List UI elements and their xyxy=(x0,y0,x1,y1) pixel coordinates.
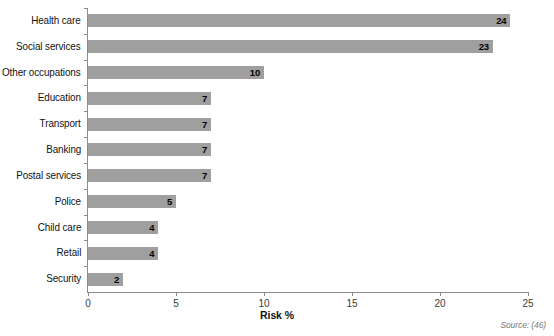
category-label: Security xyxy=(46,266,81,292)
category-label: Police xyxy=(55,189,81,215)
category-label: Other occupations xyxy=(2,60,81,86)
bar: 7 xyxy=(88,143,211,156)
y-axis-tick xyxy=(84,111,88,112)
bar: 7 xyxy=(88,169,211,182)
bar-value-label: 7 xyxy=(202,169,207,182)
category-label: Postal services xyxy=(16,163,81,189)
category-label: Retail xyxy=(56,240,81,266)
x-axis-tick xyxy=(88,292,89,296)
bar-chart: Health care24Social services23Other occu… xyxy=(0,0,554,336)
bar-value-label: 4 xyxy=(149,221,154,234)
y-axis-tick xyxy=(84,34,88,35)
category-label: Child care xyxy=(37,215,81,241)
category-label: Health care xyxy=(32,8,81,34)
x-axis-title: Risk % xyxy=(0,309,554,321)
x-axis-tick xyxy=(440,292,441,296)
bar: 4 xyxy=(88,221,158,234)
bar: 4 xyxy=(88,247,158,260)
category-label: Transport xyxy=(40,111,81,137)
bar-value-label: 5 xyxy=(167,195,172,208)
bar: 2 xyxy=(88,273,123,286)
chart-row: Social services23 xyxy=(88,34,528,60)
bar-value-label: 7 xyxy=(202,92,207,105)
chart-row: Banking7 xyxy=(88,137,528,163)
y-axis-tick xyxy=(84,137,88,138)
bar-value-label: 23 xyxy=(479,40,489,53)
x-axis-tick xyxy=(528,292,529,296)
x-axis-tick-label: 20 xyxy=(434,298,445,309)
y-axis-tick xyxy=(84,163,88,164)
bar: 10 xyxy=(88,66,264,79)
y-axis-tick xyxy=(84,189,88,190)
bar-value-label: 2 xyxy=(114,273,119,286)
bar: 23 xyxy=(88,40,493,53)
chart-row: Health care24 xyxy=(88,8,528,34)
y-axis-tick xyxy=(84,215,88,216)
x-axis-tick-label: 25 xyxy=(522,298,533,309)
chart-row: Retail4 xyxy=(88,240,528,266)
bar: 24 xyxy=(88,14,510,27)
x-axis-tick xyxy=(264,292,265,296)
chart-row: Other occupations10 xyxy=(88,60,528,86)
y-axis-tick xyxy=(84,266,88,267)
category-label: Social services xyxy=(17,34,81,60)
y-axis-tick xyxy=(84,85,88,86)
y-axis-tick xyxy=(84,60,88,61)
bar-value-label: 10 xyxy=(250,66,260,79)
bar: 5 xyxy=(88,195,176,208)
x-axis-line xyxy=(87,292,529,293)
chart-row: Child care4 xyxy=(88,215,528,241)
bar-value-label: 4 xyxy=(149,247,154,260)
x-axis-tick-label: 5 xyxy=(173,298,179,309)
y-axis-tick xyxy=(84,8,88,9)
category-label: Education xyxy=(38,85,81,111)
x-axis-tick xyxy=(352,292,353,296)
source-note: Source: (46) xyxy=(500,320,546,330)
x-axis-tick xyxy=(176,292,177,296)
category-label: Banking xyxy=(46,137,81,163)
x-axis-tick-label: 10 xyxy=(258,298,269,309)
bar: 7 xyxy=(88,118,211,131)
chart-row: Transport7 xyxy=(88,111,528,137)
bar: 7 xyxy=(88,92,211,105)
bar-value-label: 7 xyxy=(202,143,207,156)
x-axis-tick-label: 0 xyxy=(85,298,91,309)
bar-value-label: 7 xyxy=(202,118,207,131)
chart-row: Police5 xyxy=(88,189,528,215)
chart-row: Postal services7 xyxy=(88,163,528,189)
plot-area: Health care24Social services23Other occu… xyxy=(88,8,528,292)
chart-row: Education7 xyxy=(88,85,528,111)
y-axis-tick xyxy=(84,240,88,241)
chart-row: Security2 xyxy=(88,266,528,292)
bar-value-label: 24 xyxy=(496,14,506,27)
x-axis-tick-label: 15 xyxy=(346,298,357,309)
